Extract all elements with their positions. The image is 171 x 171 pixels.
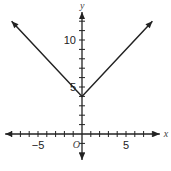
- y-tick-label: 5: [70, 81, 76, 93]
- x-axis-label: x: [163, 128, 169, 139]
- x-axis-arrow-right: [153, 131, 160, 137]
- y-axis-label: y: [79, 0, 85, 11]
- chart: −55510xyO: [0, 0, 171, 171]
- x-tick-label: −5: [32, 139, 45, 151]
- axes: [5, 12, 160, 160]
- x-tick-label: 5: [123, 139, 129, 151]
- labels: −55510xyO: [32, 0, 169, 151]
- origin-label: O: [73, 139, 80, 150]
- y-tick-label: 10: [64, 34, 76, 46]
- y-axis-arrow-down: [79, 153, 85, 160]
- y-axis-arrow-up: [79, 12, 85, 19]
